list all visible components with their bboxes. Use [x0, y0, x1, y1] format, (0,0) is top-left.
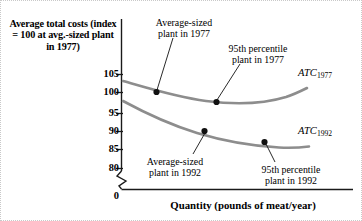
y-tick-label-80: 80 [97, 162, 119, 173]
curve-label-atc-1977-year: 1977 [317, 71, 332, 80]
callout-average-sized-plant-1992: Average-sized plant in 1992 [129, 156, 221, 178]
callout-average-sized-plant-1977: Average-sized plant in 1977 [141, 17, 227, 39]
curve-label-atc-1977-text: ATC [298, 67, 317, 78]
chart-figure: Average total costs (index = 100 at avg.… [0, 0, 362, 221]
data-point-avg-1977 [153, 89, 159, 95]
data-point-p95-1992 [261, 139, 267, 145]
callout-avg-1977-line2: plant in 1977 [158, 28, 210, 39]
callout-avg-1977-line1: Average-sized [156, 17, 212, 28]
callout-95th-percentile-plant-1977: 95th percentile plant in 1977 [206, 43, 310, 65]
callout-p95-1992-line2: plant in 1992 [265, 175, 317, 186]
callout-p95-1977-line1: 95th percentile [229, 43, 288, 54]
y-tick-label-100: 100 [97, 86, 119, 97]
origin-label: 0 [97, 190, 119, 202]
callout-avg-1992-line2: plant in 1992 [149, 167, 201, 178]
callout-avg-1992-line1: Average-sized [147, 156, 203, 167]
data-point-avg-1992 [201, 128, 207, 134]
callout-p95-1992-line1: 95th percentile [262, 164, 321, 175]
curve-label-atc-1992: ATC1992 [298, 125, 332, 137]
y-tick-label-90: 90 [97, 125, 119, 136]
leader-line-p95-1977 [217, 64, 240, 100]
curve-label-atc-1992-text: ATC [298, 125, 317, 136]
callout-95th-percentile-plant-1992: 95th percentile plant in 1992 [239, 164, 343, 186]
leader-line-avg-1992 [193, 133, 205, 154]
curve-atc-1992 [123, 101, 309, 148]
y-tick-label-105: 105 [97, 68, 119, 79]
y-tick-label-85: 85 [97, 143, 119, 154]
y-axis-title: Average total costs (index = 100 at avg.… [9, 18, 117, 52]
y-axis-break-icon [117, 171, 126, 189]
y-tick-label-95: 95 [97, 107, 119, 118]
curve-label-atc-1992-year: 1992 [317, 129, 332, 138]
callout-p95-1977-line2: plant in 1977 [232, 54, 284, 65]
x-axis-title: Quantity (pounds of meat/year) [129, 199, 357, 211]
curve-label-atc-1977: ATC1977 [298, 67, 332, 79]
data-point-p95-1977 [213, 99, 219, 105]
leader-line-avg-1977 [157, 38, 173, 90]
